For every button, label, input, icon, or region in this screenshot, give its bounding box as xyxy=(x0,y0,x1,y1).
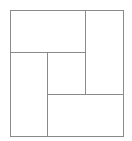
bottom-rect xyxy=(48,95,124,137)
rectangles-group xyxy=(11,11,124,137)
center-square xyxy=(48,53,86,95)
tiling-diagram xyxy=(0,0,132,141)
top-left-rect xyxy=(11,11,86,53)
outer-rectangle xyxy=(11,11,124,137)
right-rect xyxy=(86,11,124,95)
left-rect xyxy=(11,53,48,137)
